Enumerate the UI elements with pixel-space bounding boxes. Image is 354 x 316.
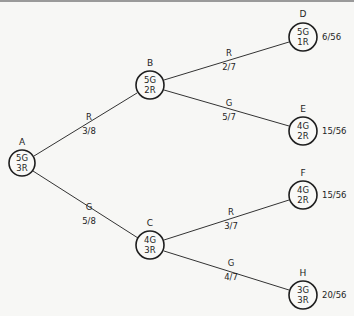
- probability-tree-diagram: R 3/8 G 5/8 R 2/7 G 5/7 R 3/7 G 4/7 A 5G…: [0, 0, 354, 316]
- node-h-probability: 20/56: [322, 290, 347, 300]
- node-h-red: 3R: [297, 295, 308, 305]
- node-b-green: 5G: [144, 75, 156, 85]
- edge-c-f: [164, 200, 289, 240]
- node-d-red: 1R: [297, 37, 308, 47]
- node-f-green: 4G: [297, 185, 309, 195]
- edge-a-b-prob: 3/8: [82, 126, 96, 136]
- node-h-green: 3G: [297, 285, 309, 295]
- edge-b-d-color: R: [226, 48, 232, 58]
- edge-a-c-color: G: [86, 202, 93, 212]
- node-e-probability: 15/56: [322, 126, 347, 136]
- node-d-green: 5G: [297, 27, 309, 37]
- node-d-probability: 6/56: [322, 32, 341, 42]
- edge-c-h-prob: 4/7: [224, 272, 238, 282]
- node-c-red: 3R: [144, 245, 155, 255]
- node-e-red: 2R: [297, 131, 308, 141]
- edge-b-e-color: G: [226, 98, 233, 108]
- node-b-red: 2R: [144, 85, 155, 95]
- node-d: D 5G 1R 6/56: [289, 9, 341, 51]
- edge-c-h: [164, 251, 289, 290]
- node-e-green: 4G: [297, 121, 309, 131]
- edge-a-c-prob: 5/8: [82, 216, 96, 226]
- edge-c-h-color: G: [228, 258, 235, 268]
- edge-c-f-color: R: [228, 207, 234, 217]
- node-c-label: C: [147, 218, 153, 228]
- node-e-label: E: [300, 104, 306, 114]
- node-f-label: F: [300, 168, 305, 178]
- node-h: H 3G 3R 20/56: [289, 268, 347, 309]
- node-a-label: A: [19, 137, 26, 147]
- node-d-label: D: [300, 9, 307, 19]
- node-f: F 4G 2R 15/56: [289, 168, 347, 209]
- node-a: A 5G 3R: [9, 137, 35, 176]
- node-c: C 4G 3R: [136, 218, 164, 259]
- node-e: E 4G 2R 15/56: [289, 104, 347, 145]
- node-a-green: 5G: [16, 153, 28, 163]
- edge-c-f-prob: 3/7: [224, 221, 238, 231]
- edge-a-b: [34, 93, 137, 156]
- node-b: B 5G 2R: [136, 58, 164, 99]
- node-f-probability: 15/56: [322, 190, 347, 200]
- node-h-label: H: [300, 268, 307, 278]
- node-c-green: 4G: [144, 235, 156, 245]
- edge-b-e-prob: 5/7: [222, 112, 236, 122]
- node-b-label: B: [147, 58, 153, 68]
- edge-b-d-prob: 2/7: [222, 62, 236, 72]
- node-f-red: 2R: [297, 195, 308, 205]
- node-a-red: 3R: [16, 163, 27, 173]
- edge-a-b-color: R: [86, 112, 92, 122]
